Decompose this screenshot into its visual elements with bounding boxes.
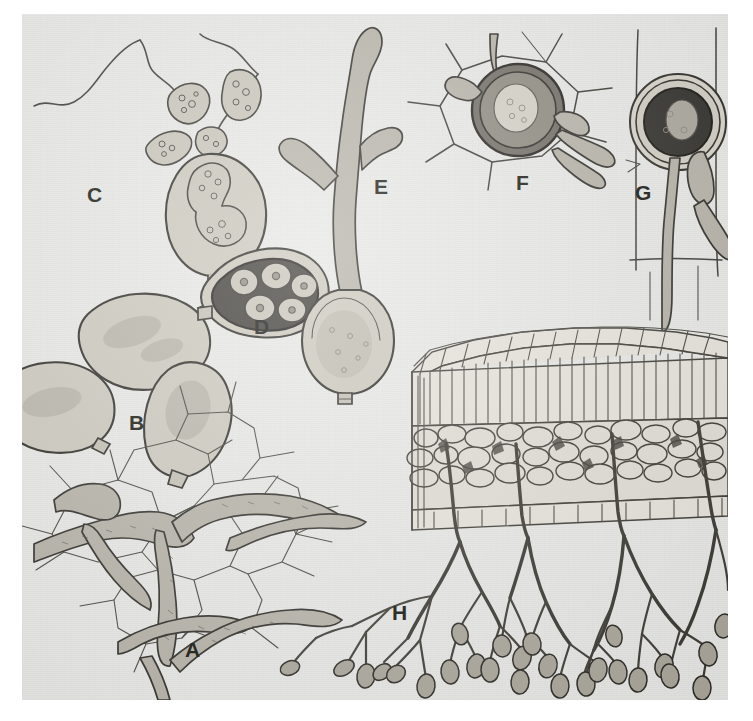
panel-c-group	[34, 34, 266, 286]
panel-label-f: F	[516, 172, 529, 193]
panel-f-group	[408, 32, 615, 190]
scanned-paper-area: A B C D E F G H	[22, 14, 728, 700]
leaf-cross-section	[407, 327, 728, 530]
panel-label-b: B	[129, 412, 145, 433]
panel-g-group	[626, 28, 728, 332]
plate-drawing	[22, 14, 728, 700]
panel-label-e: E	[374, 176, 389, 197]
panel-label-d: D	[254, 316, 270, 337]
panel-label-a: A	[185, 639, 201, 660]
panel-e-group	[279, 28, 402, 404]
panel-label-g: G	[635, 182, 652, 203]
panel-a-mycelium	[34, 484, 366, 700]
panel-b-group	[22, 294, 232, 488]
panel-label-h: H	[392, 602, 408, 623]
panel-label-c: C	[87, 184, 103, 205]
illustration-plate: A B C D E F G H	[0, 0, 753, 721]
